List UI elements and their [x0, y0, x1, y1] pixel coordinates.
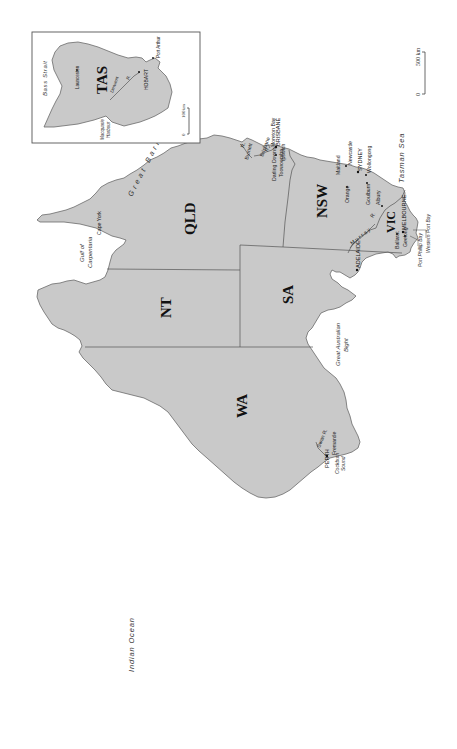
scale-main-end: 500 km: [415, 48, 421, 67]
scale-main-start: 0: [415, 93, 421, 96]
city-geelong: Geelong: [402, 227, 408, 247]
label-tasman-sea: Tasman Sea: [397, 133, 406, 183]
city-dot-adelaide: [356, 269, 358, 271]
state-label-nsw: NSW: [314, 184, 330, 218]
label-macquarie-2: Harbour: [106, 121, 111, 138]
city-newcastle: Newcastle: [347, 141, 353, 165]
city-orange: Orange: [344, 186, 350, 203]
label-indian-ocean: Indian Ocean: [127, 617, 136, 672]
mainland-landmass: [37, 135, 418, 498]
label-port-phillip-bay: Port Phillip Bay: [417, 233, 423, 267]
city-hobart: HOBART: [143, 69, 149, 90]
city-dot-albury: [381, 205, 383, 207]
label-great-australian-bight-1: Great Australian: [335, 322, 341, 366]
city-brisbane: BRISBANE: [275, 117, 281, 146]
place-port-arthur: Port Arthur: [156, 36, 161, 58]
scale-inset-end: 100km: [181, 104, 186, 118]
city-ballarat: Ballarat: [394, 231, 400, 249]
tasmania-inset: TAS Bass Strait Launceston Derwent R. HO…: [32, 32, 200, 143]
city-toowoomba: Toowoomba: [278, 149, 284, 177]
city-albury: Albury: [375, 190, 381, 205]
label-macquarie-1: Macquarie: [100, 118, 105, 140]
city-dot-port-arthur: [152, 57, 154, 59]
state-label-nt: NT: [158, 297, 174, 318]
label-bass-strait: Bass Strait: [42, 60, 48, 96]
state-label-tas: TAS: [94, 66, 110, 94]
label-gulf-1: Gulf of: [79, 243, 85, 262]
label-cockburn-2: Sound: [340, 456, 346, 471]
label-great-australian-bight-2: Bight: [343, 338, 349, 352]
city-perth: PERTH: [324, 449, 330, 468]
city-adelaide: ADELAIDE: [355, 240, 361, 268]
state-label-wa: WA: [234, 394, 250, 418]
city-launceston: Launceston: [75, 65, 80, 89]
city-maitland: Maitland: [335, 155, 341, 175]
state-label-vic: VIC: [384, 211, 398, 233]
region-darling-downs: Darling Downs: [271, 147, 277, 181]
city-melbourne: MELBOURNE: [401, 194, 407, 230]
state-label-qld: QLD: [182, 202, 198, 235]
city-dot-hobart: [138, 71, 140, 73]
city-sydney: SYDNEY: [357, 148, 363, 171]
city-wollongong: Wollongong: [366, 146, 372, 173]
australia-map: QLD NT WA SA NSW VIC Indian Ocean Great …: [0, 0, 457, 749]
place-cape-york: Cape York: [96, 211, 102, 235]
label-gulf-2: Carpentaria: [87, 236, 93, 268]
state-label-sa: SA: [280, 285, 296, 304]
city-fremantle: Fremantle: [331, 432, 337, 455]
scale-bar-main: 0 500 km: [415, 48, 425, 97]
city-goulburn: Goulburn: [365, 184, 371, 205]
city-dot-wollongong: [365, 174, 367, 176]
